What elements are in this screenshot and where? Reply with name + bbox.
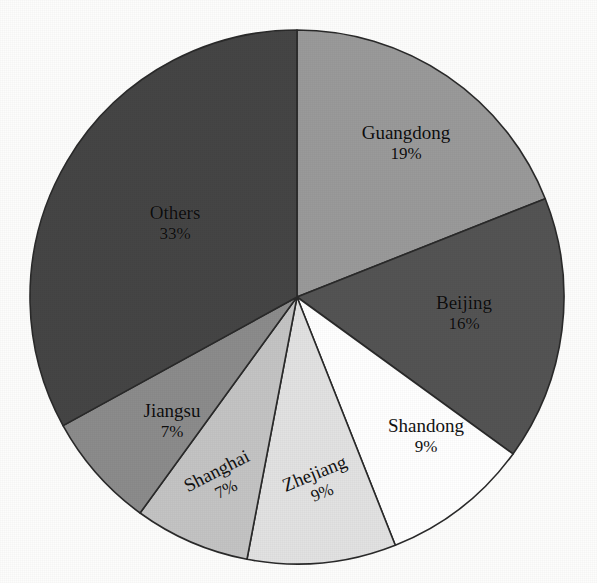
slice-label-beijing: Beijing 16% bbox=[404, 292, 524, 333]
slice-label-beijing-name: Beijing bbox=[404, 292, 524, 314]
slice-label-guangdong: Guangdong 19% bbox=[330, 122, 482, 163]
slice-label-others-name: Others bbox=[116, 202, 234, 224]
slice-label-jiangsu-name: Jiangsu bbox=[114, 400, 230, 422]
slice-label-others-value: 33% bbox=[116, 224, 234, 243]
slice-label-guangdong-value: 19% bbox=[330, 144, 482, 163]
slice-label-shandong: Shandong 9% bbox=[356, 415, 496, 456]
slice-label-others: Others 33% bbox=[116, 202, 234, 243]
slice-label-shandong-value: 9% bbox=[356, 437, 496, 456]
slice-label-guangdong-name: Guangdong bbox=[330, 122, 482, 144]
slice-label-shandong-name: Shandong bbox=[356, 415, 496, 437]
pie-chart-figure: Guangdong 19% Beijing 16% Shandong 9% Zh… bbox=[0, 0, 597, 583]
slice-label-beijing-value: 16% bbox=[404, 314, 524, 333]
slice-label-jiangsu-value: 7% bbox=[114, 422, 230, 441]
slice-label-jiangsu: Jiangsu 7% bbox=[114, 400, 230, 441]
